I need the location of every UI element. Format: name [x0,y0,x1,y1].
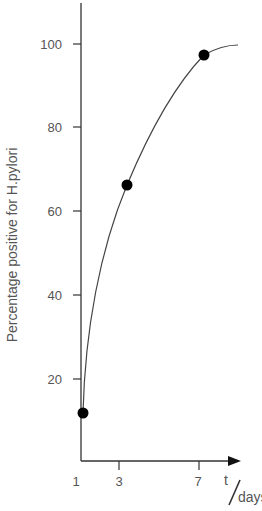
fitted-curve [83,332,127,413]
y-ticks [73,44,81,379]
data-point [199,50,210,61]
x-axis-title-denominator: days [238,489,262,505]
data-point [78,408,89,419]
y-tick-label: 20 [48,372,62,387]
chart: 100 80 60 40 20 1 3 7 t days Percentage … [0,0,262,511]
x-tick-label: 3 [115,474,122,489]
y-tick-label: 40 [48,288,62,303]
y-tick-label: 60 [48,204,62,219]
x-axis-arrow-icon [228,456,241,466]
y-tick-label: 80 [48,120,62,135]
fitted-curve-line [83,45,238,413]
x-tick-label: 7 [194,474,201,489]
data-point [122,180,133,191]
x-ticks [119,461,199,470]
x-tick-label: 1 [72,474,79,489]
y-tick-label: 100 [40,37,62,52]
y-axis-title: Percentage positive for H.pylori [4,148,20,343]
x-axis-title-numerator: t [224,472,228,488]
